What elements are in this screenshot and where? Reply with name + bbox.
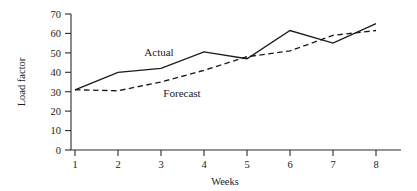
y-tick-label-50: 50 xyxy=(51,48,62,59)
y-tick-label-20: 20 xyxy=(51,106,62,117)
series-annotation-actual: Actual xyxy=(144,46,173,58)
y-tick-label-30: 30 xyxy=(51,87,62,98)
y-axis-title: Load factor xyxy=(16,57,27,106)
x-tick-label-3: 3 xyxy=(158,159,163,170)
series-line-actual xyxy=(75,24,376,90)
y-tick-label-70: 70 xyxy=(51,9,62,20)
x-tick-label-2: 2 xyxy=(115,159,120,170)
x-axis-ticks xyxy=(75,150,376,156)
x-tick-label-8: 8 xyxy=(373,159,378,170)
y-axis-ticks xyxy=(65,14,71,150)
y-tick-label-0: 0 xyxy=(56,145,61,156)
line-chart-plot: 70 60 50 40 30 20 10 0 1 2 3 4 5 6 7 8 W… xyxy=(0,0,417,191)
x-tick-label-4: 4 xyxy=(201,159,207,170)
y-tick-label-40: 40 xyxy=(51,67,62,78)
chart-figure: 70 60 50 40 30 20 10 0 1 2 3 4 5 6 7 8 W… xyxy=(0,0,417,191)
series-line-forecast xyxy=(75,31,376,91)
y-tick-label-60: 60 xyxy=(51,28,62,39)
y-tick-label-10: 10 xyxy=(51,125,62,136)
x-tick-label-7: 7 xyxy=(330,159,335,170)
x-tick-label-6: 6 xyxy=(287,159,292,170)
x-tick-label-5: 5 xyxy=(244,159,249,170)
x-axis-title: Weeks xyxy=(211,176,239,187)
series-annotation-forecast: Forecast xyxy=(163,87,200,99)
x-tick-label-1: 1 xyxy=(72,159,77,170)
